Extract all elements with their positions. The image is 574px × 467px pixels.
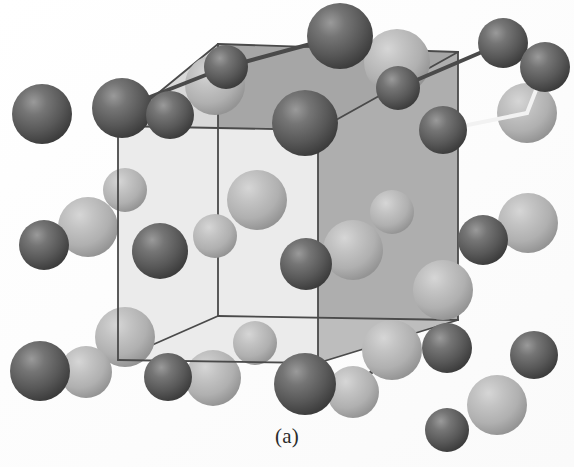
dark-atom <box>19 220 69 270</box>
light-atom <box>370 190 414 234</box>
light-atom <box>103 168 147 212</box>
light-atom <box>323 220 383 280</box>
dark-atom <box>132 223 188 279</box>
dark-atom <box>204 45 248 89</box>
dark-atom <box>307 3 373 69</box>
dark-atom <box>274 353 336 415</box>
light-atom <box>413 260 473 320</box>
light-atom <box>193 214 237 258</box>
dark-atom <box>92 78 152 138</box>
dark-atom <box>520 42 570 92</box>
dark-atom <box>12 84 72 144</box>
dark-atom <box>419 106 467 154</box>
light-atom <box>233 321 277 365</box>
dark-atom <box>272 90 338 156</box>
light-atom <box>227 170 287 230</box>
figure-caption: (a) <box>0 424 574 449</box>
dark-atom <box>144 353 192 401</box>
dark-atom <box>458 215 508 265</box>
dark-atom <box>10 341 70 401</box>
unit-cell-illustration <box>0 0 574 467</box>
dark-atom <box>376 66 420 110</box>
dark-atom <box>510 331 558 379</box>
light-atom <box>185 350 241 406</box>
light-atom <box>362 320 422 380</box>
dark-atom <box>478 18 528 68</box>
dark-atom <box>280 238 332 290</box>
dark-atom <box>422 323 472 373</box>
figure-container: (a) <box>0 0 574 467</box>
dark-atom <box>146 91 194 139</box>
